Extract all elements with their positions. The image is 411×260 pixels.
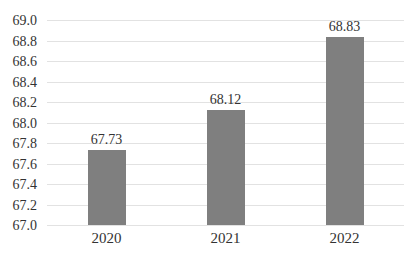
y-tick-label: 68.6 <box>0 54 37 69</box>
x-tick-label: 2020 <box>62 230 152 247</box>
value-label: 68.12 <box>186 92 266 107</box>
bar-chart: 69.068.868.668.468.268.067.867.667.467.2… <box>0 0 411 260</box>
y-axis: 69.068.868.668.468.268.067.867.667.467.2… <box>0 20 39 225</box>
y-tick-label: 67.2 <box>0 198 37 213</box>
y-tick-label: 67.0 <box>0 218 37 233</box>
value-label: 67.73 <box>67 132 147 147</box>
y-tick-label: 68.4 <box>0 75 37 90</box>
y-tick-label: 68.0 <box>0 116 37 131</box>
y-tick-label: 67.6 <box>0 157 37 172</box>
plot-area: 67.7368.1268.83 <box>47 20 404 225</box>
y-tick-label: 68.8 <box>0 34 37 49</box>
bar-2021 <box>207 110 245 225</box>
x-tick-label: 2022 <box>300 230 390 247</box>
x-tick-label: 2021 <box>181 230 271 247</box>
y-tick-label: 67.8 <box>0 136 37 151</box>
x-axis: 202020212022 <box>47 230 404 250</box>
y-tick-label: 67.4 <box>0 177 37 192</box>
y-tick-label: 69.0 <box>0 13 37 28</box>
value-label: 68.83 <box>305 19 385 34</box>
y-tick-label: 68.2 <box>0 95 37 110</box>
bar-2022 <box>326 37 364 225</box>
bar-2020 <box>88 150 126 225</box>
gridline <box>47 225 404 226</box>
